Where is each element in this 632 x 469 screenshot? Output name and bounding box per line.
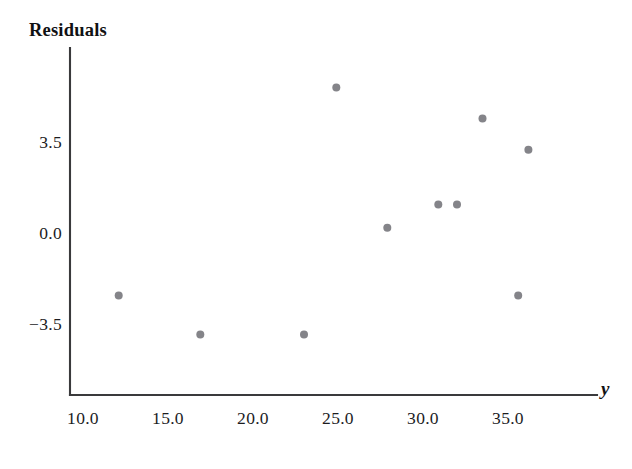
y-tick-labels-group: 3.50.0−3.5 bbox=[29, 132, 62, 334]
data-point bbox=[479, 115, 487, 123]
x-tick-label: 30.0 bbox=[407, 408, 439, 428]
data-point bbox=[514, 291, 522, 299]
data-point bbox=[453, 200, 461, 208]
x-tick-label: 35.0 bbox=[492, 408, 524, 428]
x-tick-label: 25.0 bbox=[322, 408, 354, 428]
x-tick-label: 10.0 bbox=[67, 408, 99, 428]
data-point bbox=[300, 330, 308, 338]
x-tick-labels-group: 10.015.020.025.030.035.0 bbox=[67, 408, 524, 428]
y-tick-label: 3.5 bbox=[39, 132, 62, 152]
data-points-group bbox=[115, 83, 533, 338]
data-point bbox=[434, 200, 442, 208]
axes-group bbox=[70, 48, 597, 395]
data-point bbox=[115, 291, 123, 299]
data-point bbox=[332, 83, 340, 91]
data-point bbox=[196, 330, 204, 338]
x-tick-label: 15.0 bbox=[152, 408, 184, 428]
data-point bbox=[383, 224, 391, 232]
y-tick-label: −3.5 bbox=[29, 314, 62, 334]
x-tick-label: 20.0 bbox=[237, 408, 269, 428]
data-point bbox=[524, 146, 532, 154]
residual-plot-figure: Residuals y 10.015.020.025.030.035.0 3.5… bbox=[0, 0, 632, 469]
scatter-plot-canvas: 10.015.020.025.030.035.0 3.50.0−3.5 bbox=[0, 0, 632, 469]
y-tick-label: 0.0 bbox=[39, 223, 62, 243]
